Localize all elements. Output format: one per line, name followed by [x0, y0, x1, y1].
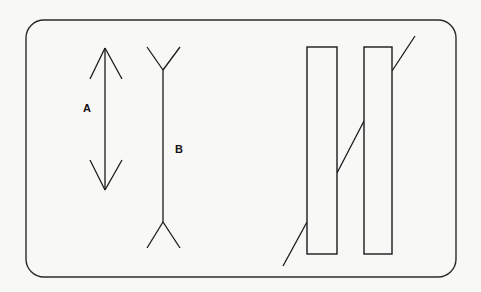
diagonal-lower-segment [283, 222, 307, 266]
diagonal-upper-segment [392, 36, 415, 71]
figure-a-group: A [83, 48, 122, 190]
figure-a-label: A [83, 102, 91, 114]
figure-a-fin-top-right [105, 48, 122, 79]
figure-b-fin-top-left [147, 47, 163, 70]
poggendorff-bar-left [307, 47, 337, 254]
diagonal-middle-segment [337, 121, 364, 173]
figure-b-label: B [175, 143, 183, 155]
figure-b-group: B [147, 47, 183, 248]
figure-c-group [283, 36, 415, 266]
poggendorff-bar-right [364, 47, 392, 254]
figure-b-fin-bottom-left [147, 222, 163, 248]
figure-canvas: A B [0, 0, 481, 292]
figure-a-fin-top-left [90, 48, 105, 79]
figure-a-fin-bottom-right [105, 160, 122, 190]
figure-a-fin-bottom-left [90, 160, 105, 190]
figure-b-fin-top-right [163, 47, 180, 70]
illusion-figure-page: A B [0, 0, 481, 292]
figure-b-fin-bottom-right [163, 222, 180, 248]
